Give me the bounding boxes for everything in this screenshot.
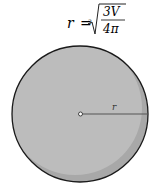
formula-lhs: r	[67, 15, 75, 31]
formula-numerator: 3V	[103, 5, 121, 19]
center-point	[79, 112, 83, 116]
sphere-diagram: r = 3 3V 4π r	[0, 0, 157, 195]
formula-denominator: 4π	[102, 22, 120, 36]
volume-radius-formula: r = 3 3V 4π	[67, 4, 126, 36]
radius-label: r	[112, 102, 117, 112]
